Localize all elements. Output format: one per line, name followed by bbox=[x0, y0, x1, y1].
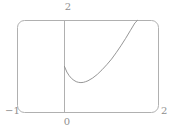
x-axis-tick-label-origin: 0 bbox=[60, 117, 74, 127]
y-axis-tick-label-top: 2 bbox=[61, 2, 75, 12]
x-axis-tick-label-right: 2 bbox=[161, 106, 175, 116]
plot-frame bbox=[18, 21, 159, 113]
curve-path bbox=[65, 21, 138, 83]
x-axis-tick-label-left: −1 bbox=[5, 106, 21, 116]
function-plot-figure: 2 −1 0 2 bbox=[0, 0, 176, 132]
plot-canvas bbox=[0, 0, 176, 132]
